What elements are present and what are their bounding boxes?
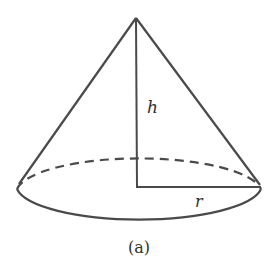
height-line — [136, 18, 137, 188]
height-label: h — [147, 97, 158, 117]
radius-label: r — [195, 192, 204, 211]
base-ellipse-front — [17, 189, 261, 220]
cone-diagram: h r (a) — [0, 0, 273, 271]
caption: (a) — [128, 238, 150, 257]
base-ellipse-back — [17, 158, 261, 189]
